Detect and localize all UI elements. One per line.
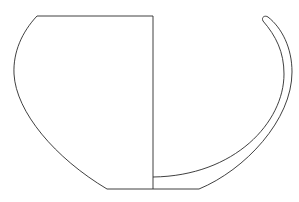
section-inner-wall (153, 21, 284, 177)
section-rim-tip (262, 16, 268, 21)
vessel-profile-svg (0, 0, 299, 202)
pottery-drawing (0, 0, 299, 202)
exterior-outline (14, 16, 153, 189)
